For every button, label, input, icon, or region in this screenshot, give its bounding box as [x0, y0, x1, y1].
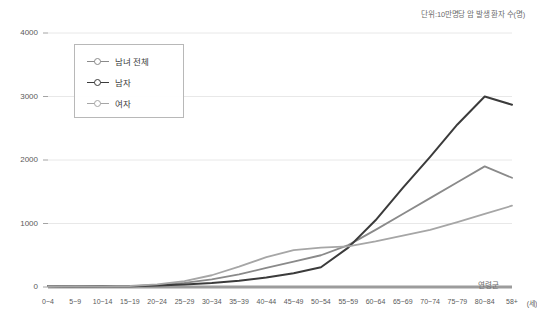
x-tick-label: 60~64	[366, 298, 386, 305]
x-tick-label: 40~44	[257, 298, 277, 305]
y-tick-label: 1000	[4, 219, 38, 228]
series-line-female	[48, 206, 512, 287]
y-tick-label: 0	[4, 282, 38, 291]
x-tick-label: 10~14	[93, 298, 113, 305]
x-tick-label: 0~4	[42, 298, 54, 305]
legend-label-total: 남녀 전체	[115, 55, 148, 67]
y-tick-label: 3000	[4, 92, 38, 101]
x-tick-label: 75~79	[448, 298, 468, 305]
unit-note-label: 단위:10만명당 암 발생 환자 수(명)	[421, 8, 525, 19]
legend-item-total[interactable]: 남녀 전체	[87, 55, 148, 67]
y-tick-label: 4000	[4, 28, 38, 37]
legend-label-female: 여자	[115, 97, 131, 109]
x-axis-title: 연령군	[478, 279, 498, 290]
x-tick-label: 30~34	[202, 298, 222, 305]
x-tick-label: 45~49	[284, 298, 304, 305]
series-lines-group	[48, 97, 512, 287]
x-tick-label: 65~69	[393, 298, 413, 305]
x-tick-label: 25~29	[175, 298, 195, 305]
legend-label-male: 남자	[115, 76, 131, 88]
x-tick-label: 58+	[506, 298, 518, 305]
x-tick-label: 35~39	[229, 298, 249, 305]
x-tick-label: 20~24	[147, 298, 167, 305]
legend-marker-icon-total	[87, 56, 109, 66]
y-tick-label: 2000	[4, 155, 38, 164]
x-tick-label: 55~59	[338, 298, 358, 305]
x-axis-unit-suffix: (세)	[527, 298, 537, 308]
legend-marker-icon-female	[87, 98, 109, 108]
legend-item-female[interactable]: 여자	[87, 97, 131, 109]
x-tick-label: 80~84	[475, 298, 495, 305]
x-tick-label: 15~19	[120, 298, 140, 305]
legend-marker-icon-male	[87, 77, 109, 87]
chart-legend: 남녀 전체 남자 여자	[74, 44, 184, 118]
legend-item-male[interactable]: 남자	[87, 76, 131, 88]
x-tick-label: 5~9	[69, 298, 81, 305]
x-tick-label: 70~74	[420, 298, 440, 305]
x-tick-label: 50~54	[311, 298, 331, 305]
